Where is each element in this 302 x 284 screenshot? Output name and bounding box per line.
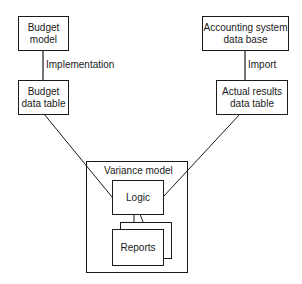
budget-table-line2: data table xyxy=(22,98,66,110)
logic-box: Logic xyxy=(112,180,164,215)
reports-box: Reports xyxy=(112,229,164,266)
logic-label: Logic xyxy=(126,192,150,204)
budget-data-table-box: Budget data table xyxy=(18,80,69,115)
actual-line1: Actual results xyxy=(222,86,282,98)
import-label: Import xyxy=(248,59,276,71)
accounting-database-box: Accounting system data base xyxy=(202,16,289,51)
reports-label: Reports xyxy=(120,242,155,254)
implementation-label: Implementation xyxy=(46,59,114,71)
budget-model-box: Budget model xyxy=(18,16,69,51)
budget-model-line1: Budget xyxy=(28,22,60,34)
actual-results-box: Actual results data table xyxy=(216,80,288,115)
accounting-line1: Accounting system xyxy=(204,22,288,34)
variance-model-label: Variance model xyxy=(104,165,173,177)
budget-table-line1: Budget xyxy=(22,86,66,98)
accounting-line2: data base xyxy=(204,34,288,46)
budget-model-line2: model xyxy=(28,34,60,46)
actual-line2: data table xyxy=(222,98,282,110)
